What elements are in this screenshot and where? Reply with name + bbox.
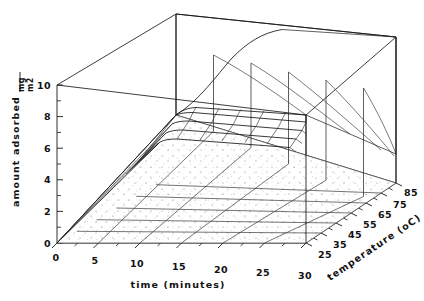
z-unit-denominator: m2 (26, 77, 35, 92)
x-tick-10: 10 (130, 258, 144, 269)
z-tick-6: 6 (44, 143, 51, 154)
y-tick-75: 75 (393, 199, 407, 210)
curve-t65-depth (306, 115, 396, 154)
z-axis-title: amount adsorbed (10, 96, 21, 207)
x-tick-5: 5 (91, 255, 98, 266)
z-tick-4: 4 (44, 174, 51, 185)
x-tick-20: 20 (214, 264, 228, 275)
y-tick-45: 45 (348, 229, 362, 240)
y-tick-55: 55 (363, 219, 377, 230)
z-axis (57, 85, 63, 243)
y-tick-35: 35 (333, 239, 347, 250)
sweep-d (326, 80, 394, 156)
surface-plot-svg: 0 2 4 6 8 10 amount adsorbed mg m2 (0, 0, 424, 301)
figure-canvas: 0 2 4 6 8 10 amount adsorbed mg m2 (0, 0, 424, 301)
sweep-e (364, 88, 397, 154)
sweep-b (251, 63, 350, 134)
z-tick-2: 2 (44, 206, 51, 217)
low-temp-end-drops (290, 131, 306, 153)
z-tick-8: 8 (44, 111, 51, 122)
z-axis-unit: mg m2 (17, 72, 35, 92)
curve-t85-plateau (176, 14, 396, 37)
x-axis-tick-labels: 0 5 10 15 20 25 30 (52, 252, 312, 281)
z-axis-tick-labels: 0 2 4 6 8 10 (37, 80, 51, 249)
x-tick-30: 30 (298, 270, 312, 281)
x-tick-25: 25 (256, 267, 270, 278)
z-tick-0: 0 (44, 238, 51, 249)
x-tick-15: 15 (172, 261, 186, 272)
y-tick-85: 85 (404, 187, 418, 198)
sweep-c (289, 72, 382, 150)
cropped-caption (12, 286, 412, 296)
x-axis (52, 243, 306, 248)
z-unit-numerator: mg (17, 77, 26, 92)
y-tick-65: 65 (378, 209, 392, 220)
y-tick-25: 25 (318, 249, 332, 260)
z-axis-title-text: amount adsorbed (10, 96, 21, 207)
z-tick-10: 10 (37, 80, 51, 91)
x-tick-0: 0 (52, 252, 59, 263)
